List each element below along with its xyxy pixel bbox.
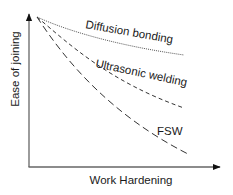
fsw-label: FSW bbox=[157, 125, 183, 137]
y-axis-label: Ease of joining bbox=[9, 31, 21, 106]
x-axis-label: Work Hardening bbox=[90, 174, 173, 186]
ultrasonic-welding-label: Ultrasonic welding bbox=[95, 57, 189, 88]
work-hardening-joining-diagram: Diffusion bonding Ultrasonic welding FSW… bbox=[0, 0, 233, 195]
diagram-canvas: Diffusion bonding Ultrasonic welding FSW… bbox=[0, 0, 233, 195]
diffusion-bonding-label: Diffusion bonding bbox=[85, 18, 174, 45]
